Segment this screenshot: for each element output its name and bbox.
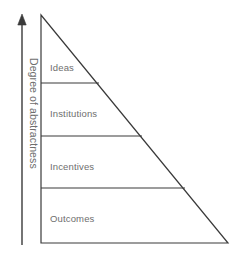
pyramid-outline <box>41 15 228 243</box>
tier-label-outcomes: Outcomes <box>50 213 95 224</box>
abstractness-pyramid-figure: Degree of abstractness Ideas Institution… <box>0 0 241 256</box>
tier-label-institutions: Institutions <box>50 108 97 119</box>
up-arrow-icon <box>18 14 26 25</box>
axis-label-degree-of-abstractness: Degree of abstractness <box>28 58 40 169</box>
tier-label-incentives: Incentives <box>50 161 94 172</box>
tier-label-ideas: Ideas <box>50 62 74 73</box>
